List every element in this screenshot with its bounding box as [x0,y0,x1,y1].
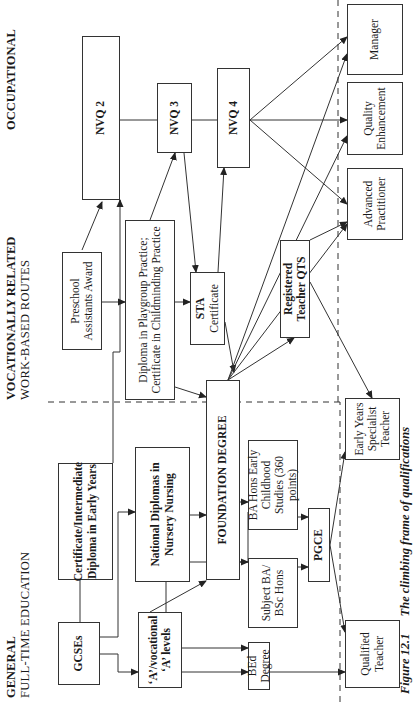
figure-title: The climbing frame of qualifications [398,427,412,617]
box-bed-degree: BEd Degree [248,642,270,690]
box-early-years-specialist-teacher: Early Years Specialist Teacher [345,398,400,460]
box-a-levels: ‘A’/vocational ‘A’ levels [138,612,182,688]
header-occupational-line1: OCCUPATIONAL [4,29,18,130]
sta-title: STA [194,298,207,320]
box-foundation-degree: FOUNDATION DEGREE [206,380,240,580]
box-quality-enhancement: Quality Enhancement [347,82,403,155]
box-gcses: GCSEs [58,622,100,685]
figure-number: Figure 12.1 [398,634,412,694]
box-preschool-assistants-award: Preschool Assistants Award [62,252,102,350]
box-sta-certificate: STA Certificate [190,272,225,345]
box-diploma-playgroup: Diploma in Playgroup Practice; Certifica… [125,220,175,400]
box-national-diplomas: National Diplomas in Nursery Nursing [135,447,190,582]
header-vocational-line2: WORK-BASED ROUTES [18,237,32,400]
box-advanced-practitioner: Advanced Practitioner [347,168,403,240]
header-general-line1: GENERAL [4,552,18,698]
box-registered-teacher-qts: Registered Teacher QTS [280,240,310,338]
header-general-line2: FULL-TIME EDUCATION [18,552,32,698]
box-nvq4: NVQ 4 [217,68,250,168]
qualifications-diagram: GENERAL FULL-TIME EDUCATION VOCATIONALLY… [0,0,418,702]
sta-subtitle: Certificate [208,284,221,333]
header-vocational: VOCATIONALLY RELATED WORK-BASED ROUTES [4,237,33,400]
header-occupational: OCCUPATIONAL [4,29,18,130]
box-certificate-intermediate: Certificate/Intermediate Diploma in Earl… [58,463,113,580]
box-ba-hons: BA Hons Early Childhood Studies (360 poi… [248,440,298,530]
header-general: GENERAL FULL-TIME EDUCATION [4,552,33,698]
box-nvq2: NVQ 2 [82,36,120,200]
box-subject-ba: Subject BA/ BSc Hons [248,558,298,628]
box-manager: Manager [347,4,403,75]
box-pgce: PGCE [308,508,330,582]
box-qualified-teacher: Qualified Teacher [345,620,400,688]
figure-caption: Figure 12.1 The climbing frame of qualif… [398,427,413,694]
box-nvq3: NVQ 3 [157,83,192,153]
header-vocational-line1: VOCATIONALLY RELATED [4,237,18,400]
